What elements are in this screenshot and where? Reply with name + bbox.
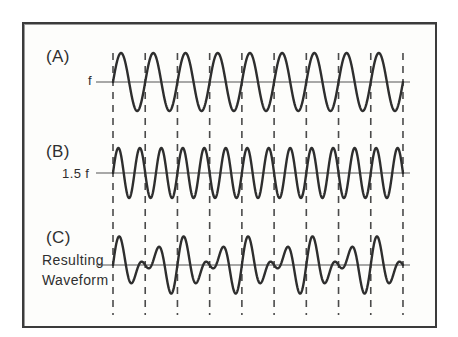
panel-c-letter: (C)	[46, 228, 71, 248]
panel-a-letter: (A)	[46, 47, 70, 67]
panel-b-letter: (B)	[46, 142, 70, 162]
panel-b-axis-label: 1.5 f	[62, 166, 89, 181]
waveform-figure: (A) f (B) 1.5 f (C) Resulting Waveform	[0, 0, 458, 337]
panel-a-axis-label: f	[88, 73, 92, 88]
panel-c-caption-line-1: Resulting	[42, 252, 104, 268]
panel-c-caption-line-2: Waveform	[42, 272, 108, 288]
